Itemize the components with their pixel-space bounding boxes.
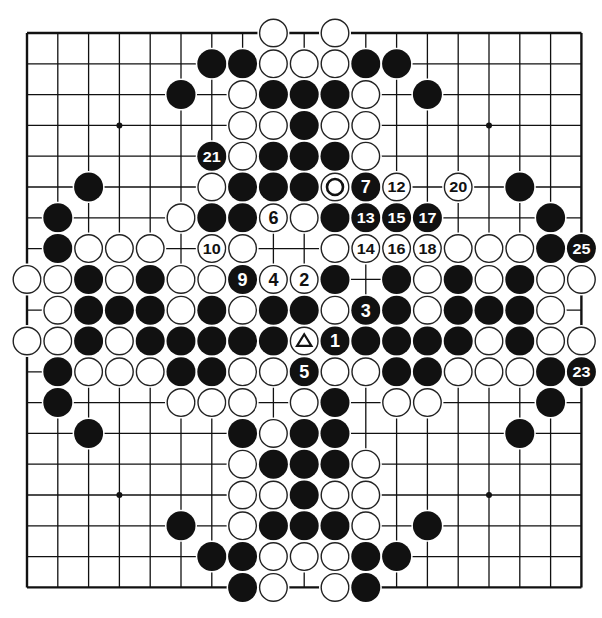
move-number-label: 14	[357, 240, 376, 257]
white-stone: 4	[257, 263, 289, 295]
move-number-label: 18	[418, 240, 436, 257]
white-stone	[227, 79, 259, 111]
white-stone	[134, 356, 166, 388]
move-number-label: 25	[572, 240, 590, 257]
white-stone	[73, 356, 105, 388]
black-stone	[227, 417, 259, 449]
black-stone	[381, 48, 413, 80]
move-number-label: 10	[203, 240, 221, 257]
white-stone	[257, 417, 289, 449]
black-stone: 21	[196, 140, 228, 172]
white-stone: 14	[350, 233, 382, 265]
black-stone	[134, 263, 166, 295]
black-stone	[165, 325, 197, 357]
white-stone	[350, 448, 382, 480]
black-stone	[103, 294, 135, 326]
black-stone: 7	[350, 171, 382, 203]
black-stone	[42, 233, 74, 265]
black-stone	[196, 48, 228, 80]
black-stone	[227, 171, 259, 203]
star-point	[116, 492, 122, 498]
black-stone: 17	[411, 202, 443, 234]
black-stone	[196, 356, 228, 388]
white-stone: 16	[381, 233, 413, 265]
white-stone	[319, 17, 351, 49]
star-point	[116, 122, 122, 128]
move-number-label: 7	[361, 177, 371, 197]
white-stone	[196, 171, 228, 203]
black-stone	[73, 171, 105, 203]
white-stone	[227, 510, 259, 542]
black-stone	[165, 510, 197, 542]
black-stone	[288, 479, 320, 511]
black-stone	[165, 79, 197, 111]
move-number-label: 5	[299, 362, 309, 382]
black-stone	[257, 140, 289, 172]
white-stone	[535, 325, 567, 357]
white-stone	[165, 263, 197, 295]
white-stone	[504, 233, 536, 265]
black-stone	[381, 294, 413, 326]
white-stone	[319, 571, 351, 603]
black-stone	[288, 140, 320, 172]
white-stone	[42, 325, 74, 357]
black-stone	[442, 263, 474, 295]
black-stone	[504, 171, 536, 203]
move-number-label: 13	[357, 209, 375, 226]
move-number-label: 16	[388, 240, 406, 257]
white-stone	[535, 294, 567, 326]
black-stone	[42, 387, 74, 419]
white-stone	[411, 387, 443, 419]
black-stone	[73, 263, 105, 295]
white-stone	[350, 109, 382, 141]
black-stone	[134, 325, 166, 357]
black-stone	[257, 510, 289, 542]
black-stone	[196, 325, 228, 357]
white-stone	[73, 233, 105, 265]
white-stone	[350, 356, 382, 388]
black-stone	[535, 387, 567, 419]
white-stone	[11, 325, 43, 357]
black-stone	[288, 171, 320, 203]
black-stone	[134, 294, 166, 326]
white-stone	[473, 325, 505, 357]
white-stone	[103, 356, 135, 388]
black-stone	[381, 325, 413, 357]
move-number-label: 9	[238, 270, 248, 290]
black-stone	[288, 510, 320, 542]
black-stone	[504, 325, 536, 357]
white-stone	[42, 263, 74, 295]
black-stone	[288, 294, 320, 326]
black-stone	[411, 325, 443, 357]
black-stone	[319, 263, 351, 295]
white-stone	[473, 356, 505, 388]
white-stone	[350, 79, 382, 111]
black-stone	[319, 140, 351, 172]
black-stone	[42, 356, 74, 388]
black-stone	[381, 356, 413, 388]
white-stone	[103, 263, 135, 295]
white-stone: 20	[442, 171, 474, 203]
black-stone: 25	[565, 233, 597, 265]
white-stone	[442, 233, 474, 265]
white-stone	[442, 356, 474, 388]
black-stone	[73, 294, 105, 326]
white-stone	[350, 510, 382, 542]
white-stone	[257, 356, 289, 388]
white-stone	[257, 479, 289, 511]
move-number-label: 6	[268, 208, 278, 228]
white-stone	[227, 233, 259, 265]
black-stone	[288, 448, 320, 480]
move-number-label: 2	[299, 270, 309, 290]
move-number-label: 20	[449, 178, 467, 195]
white-stone	[411, 294, 443, 326]
black-stone	[319, 448, 351, 480]
black-stone	[381, 263, 413, 295]
black-stone	[165, 356, 197, 388]
white-stone	[473, 233, 505, 265]
black-stone	[504, 294, 536, 326]
white-stone	[257, 109, 289, 141]
white-stone	[565, 325, 597, 357]
black-stone	[196, 294, 228, 326]
move-number-label: 1	[330, 331, 340, 351]
